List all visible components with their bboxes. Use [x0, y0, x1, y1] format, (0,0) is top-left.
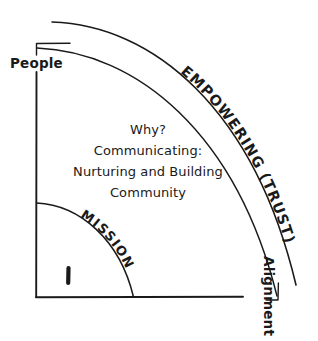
center-text-block: Why? Communicating: Nurturing and Buildi… [73, 122, 223, 200]
people-axis-label: People [10, 55, 63, 71]
mission-arc-label: MISSION [78, 207, 137, 271]
center-text-line-4: Community [110, 185, 186, 200]
diagram-canvas: People Alignment EMPOWERING (TRUST) MISS… [0, 0, 318, 341]
center-text-line-1: Why? [130, 122, 166, 137]
center-text-line-3: Nurturing and Building [73, 164, 223, 179]
center-text-line-2: Communicating: [94, 143, 203, 158]
alignment-axis-label: Alignment [261, 256, 277, 336]
mission-text-path: MISSION [78, 207, 137, 271]
quadrant-diagram: People Alignment EMPOWERING (TRUST) MISS… [0, 0, 318, 341]
